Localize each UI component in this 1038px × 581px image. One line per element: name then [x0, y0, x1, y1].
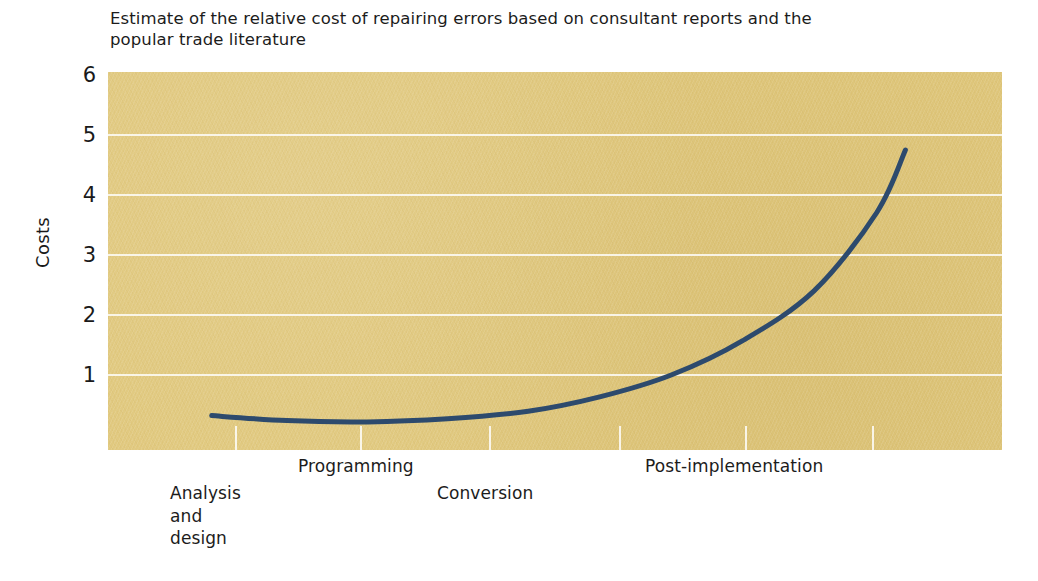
x-label-post-implementation: Post-implementation	[645, 455, 823, 478]
y-axis-title: Costs	[32, 193, 53, 293]
y-tick-label-3: 3	[70, 243, 96, 267]
y-tick-label-5: 5	[70, 123, 96, 147]
chart-caption-line-1: Estimate of the relative cost of repairi…	[110, 8, 900, 29]
chart-caption-line-2: popular trade literature	[110, 29, 900, 50]
x-label-conversion: Conversion	[437, 482, 533, 505]
y-tick-label-2: 2	[70, 303, 96, 327]
plot-area	[108, 72, 1002, 450]
y-tick-label-4: 4	[70, 183, 96, 207]
cost-curve-line	[212, 150, 906, 422]
chart-caption: Estimate of the relative cost of repairi…	[110, 8, 900, 50]
x-label-analysis-and-design: Analysis and design	[170, 482, 241, 550]
x-label-programming: Programming	[298, 455, 414, 478]
y-axis-tick-labels: 6 5 4 3 2 1	[52, 72, 96, 450]
y-tick-label-1: 1	[70, 363, 96, 387]
cost-curve-chart	[108, 72, 1002, 450]
y-tick-label-6: 6	[70, 63, 96, 87]
